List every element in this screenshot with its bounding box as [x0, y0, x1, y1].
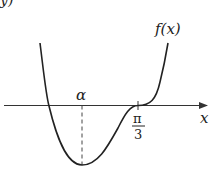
function-curve [40, 43, 168, 165]
function-graph: y) f(x) α x π 3 [0, 0, 219, 173]
corner-fragment: y) [0, 0, 13, 8]
three-label: 3 [134, 127, 142, 142]
pi-label: π [133, 111, 142, 126]
alpha-label: α [76, 86, 86, 104]
x-axis-label: x [200, 109, 209, 127]
function-label: f(x) [154, 20, 181, 38]
